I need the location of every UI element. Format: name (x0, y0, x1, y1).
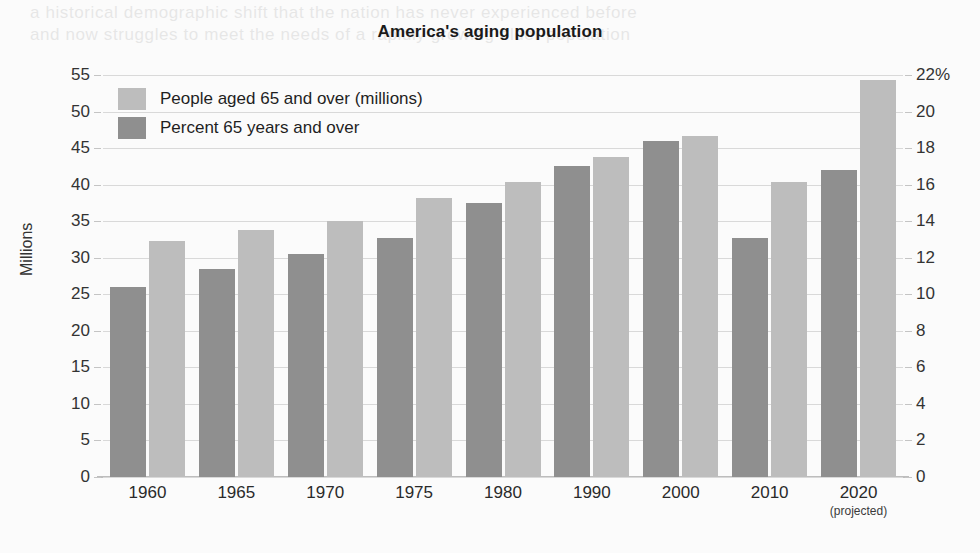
y-axis-label-right: 18 (916, 138, 935, 158)
y-axis-tick-right (905, 404, 912, 405)
y-axis-label-left: 45 (71, 138, 90, 158)
x-axis-label-1960: 1960 (103, 483, 192, 503)
bar-millions-2020[interactable] (860, 80, 896, 477)
y-axis-tick-left (94, 258, 101, 259)
y-axis-label-left: 10 (71, 394, 90, 414)
y-axis-label-right: 16 (916, 175, 935, 195)
y-axis-label-left: 15 (71, 357, 90, 377)
y-axis-tick-left (94, 404, 101, 405)
y-axis-label-left: 40 (71, 175, 90, 195)
y-axis-label-left: 20 (71, 321, 90, 341)
x-axis-label-text: 1960 (129, 483, 167, 502)
gridline (103, 75, 903, 76)
legend-item-percent[interactable]: Percent 65 years and over (118, 113, 423, 142)
x-axis-label-text: 1980 (484, 483, 522, 502)
y-axis-label-right: 4 (916, 394, 925, 414)
bar-percent-1980[interactable] (466, 203, 502, 477)
y-axis-tick-left (94, 477, 101, 478)
bar-millions-1990[interactable] (593, 157, 629, 477)
x-axis-label-2010: 2010 (725, 483, 814, 503)
bar-percent-1990[interactable] (554, 166, 590, 477)
legend-label-millions: People aged 65 and over (millions) (160, 89, 423, 109)
y-axis-label-right: 2 (916, 430, 925, 450)
y-axis-tick-left (94, 75, 101, 76)
y-axis-label-right: 12 (916, 248, 935, 268)
x-axis-label-1965: 1965 (192, 483, 281, 503)
y-axis-label-left: 30 (71, 248, 90, 268)
y-axis-tick-left (94, 185, 101, 186)
y-axis-tick-right (905, 440, 912, 441)
y-axis-label-right: 6 (916, 357, 925, 377)
bar-percent-2000[interactable] (643, 141, 679, 477)
y-axis-tick-left (94, 367, 101, 368)
bar-percent-2010[interactable] (732, 238, 768, 477)
bar-millions-1970[interactable] (327, 221, 363, 477)
x-axis-label-2000: 2000 (636, 483, 725, 503)
x-axis-label-text: 1970 (306, 483, 344, 502)
y-axis-tick-right (905, 477, 912, 478)
legend-item-millions[interactable]: People aged 65 and over (millions) (118, 84, 423, 113)
y-axis-label-right: 20 (916, 102, 935, 122)
y-axis-label-left: 35 (71, 211, 90, 231)
gridline (103, 477, 903, 478)
chart-legend: People aged 65 and over (millions) Perce… (118, 84, 423, 142)
y-axis-tick-left (94, 112, 101, 113)
bar-percent-1965[interactable] (199, 269, 235, 477)
legend-swatch-millions-icon (118, 88, 146, 110)
legend-label-percent: Percent 65 years and over (160, 118, 359, 138)
y-axis-title: Millions (18, 223, 36, 276)
bar-millions-1965[interactable] (238, 230, 274, 477)
y-axis-tick-right (905, 258, 912, 259)
bar-percent-1960[interactable] (110, 287, 146, 477)
bar-percent-2020[interactable] (821, 170, 857, 477)
y-axis-label-right: 8 (916, 321, 925, 341)
y-axis-label-left: 0 (81, 467, 90, 487)
x-axis-label-text: 1975 (395, 483, 433, 502)
x-axis-label-1970: 1970 (281, 483, 370, 503)
y-axis-label-right: 14 (916, 211, 935, 231)
y-axis-label-left: 5 (81, 430, 90, 450)
x-axis-label-1980: 1980 (459, 483, 548, 503)
x-axis-label-1990: 1990 (547, 483, 636, 503)
y-axis-label-left: 50 (71, 102, 90, 122)
gridline (103, 148, 903, 149)
y-axis-tick-right (905, 148, 912, 149)
y-axis-tick-right (905, 75, 912, 76)
y-axis-label-right: 0 (916, 467, 925, 487)
y-axis-tick-left (94, 440, 101, 441)
bar-millions-1980[interactable] (505, 182, 541, 477)
x-axis-label-text: 1965 (217, 483, 255, 502)
x-axis-label-2020: 2020(projected) (814, 483, 903, 518)
bar-millions-1975[interactable] (416, 198, 452, 477)
y-axis-tick-right (905, 331, 912, 332)
x-axis-label-text: 1990 (573, 483, 611, 502)
x-axis-label-text: 2000 (662, 483, 700, 502)
x-axis-label-text: 2010 (751, 483, 789, 502)
y-axis-label-right: 22% (916, 65, 950, 85)
y-axis-tick-left (94, 221, 101, 222)
x-axis-label-note: (projected) (814, 504, 903, 518)
bar-millions-2000[interactable] (682, 136, 718, 477)
bar-percent-1975[interactable] (377, 238, 413, 477)
bar-millions-2010[interactable] (771, 182, 807, 477)
bar-millions-1960[interactable] (149, 241, 185, 477)
x-axis-label-1975: 1975 (370, 483, 459, 503)
y-axis-tick-right (905, 185, 912, 186)
y-axis-tick-right (905, 112, 912, 113)
y-axis-tick-left (94, 148, 101, 149)
y-axis-tick-right (905, 294, 912, 295)
y-axis-label-left: 55 (71, 65, 90, 85)
x-axis-label-text: 2020 (840, 483, 878, 502)
y-axis-tick-left (94, 294, 101, 295)
y-axis-tick-right (905, 221, 912, 222)
y-axis-label-left: 25 (71, 284, 90, 304)
legend-swatch-percent-icon (118, 117, 146, 139)
y-axis-tick-right (905, 367, 912, 368)
y-axis-label-right: 10 (916, 284, 935, 304)
chart-area: Millions 0052104156208251030123514401645… (0, 0, 980, 553)
y-axis-tick-left (94, 331, 101, 332)
bar-percent-1970[interactable] (288, 254, 324, 477)
